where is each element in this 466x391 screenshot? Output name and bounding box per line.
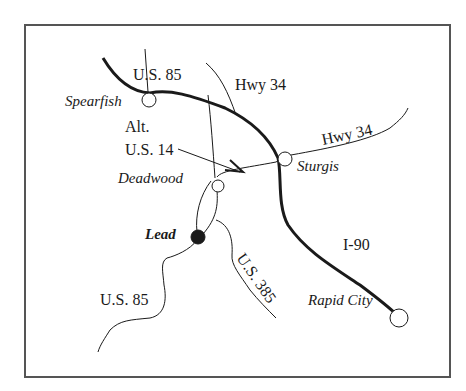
label-spearfish: Spearfish xyxy=(65,93,122,109)
spearfish-marker-icon xyxy=(142,93,156,107)
label-sturgis: Sturgis xyxy=(297,158,339,174)
label-deadwood: Deadwood xyxy=(117,170,183,186)
sturgis-marker-icon xyxy=(278,152,292,166)
label-lead: Lead xyxy=(144,226,176,242)
deadwood-marker-icon xyxy=(212,180,224,192)
label-i90: I-90 xyxy=(343,236,370,253)
label-rapid-city: Rapid City xyxy=(307,292,373,308)
lead-marker-icon xyxy=(191,230,205,244)
label-alt-us14-line2: U.S. 14 xyxy=(125,141,173,158)
road-map: U.S. 85 Hwy 34 Alt. U.S. 14 Hwy 34 I-90 … xyxy=(0,0,466,391)
label-us85-north: U.S. 85 xyxy=(133,66,181,83)
label-alt-us14-line1: Alt. xyxy=(125,118,149,135)
label-hwy34-north: Hwy 34 xyxy=(235,76,286,94)
rapid-city-marker-icon xyxy=(390,309,408,327)
label-us85-south: U.S. 85 xyxy=(100,291,148,308)
